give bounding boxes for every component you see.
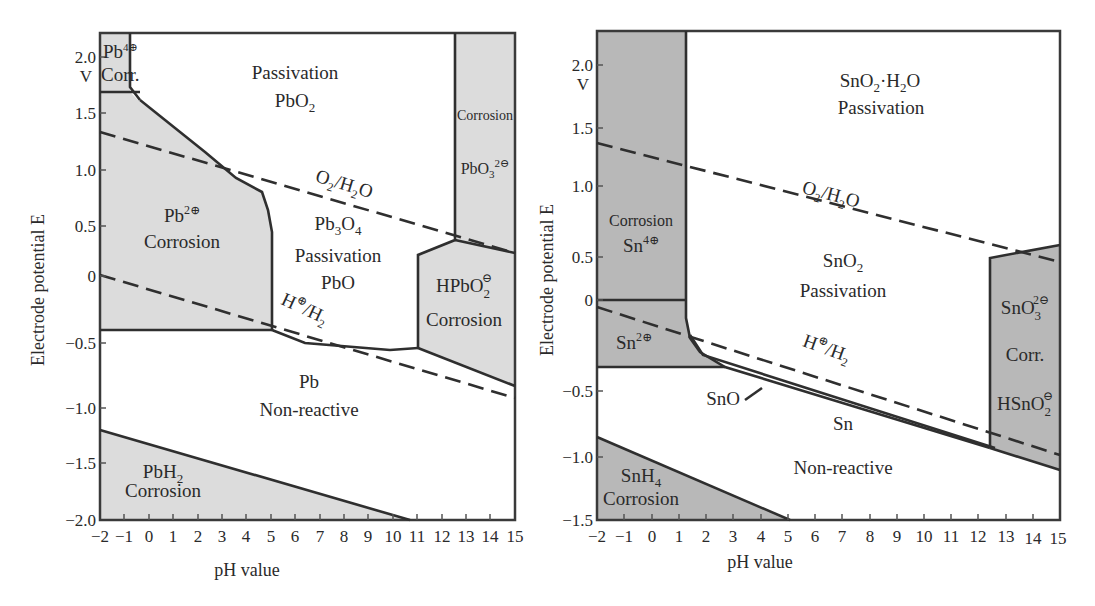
y-tick-labels: 2.0 V 1.5 1.0 0.5 0 −0.5 −1.0 −1.5 bbox=[562, 56, 593, 530]
svg-text:−1.0: −1.0 bbox=[562, 448, 593, 467]
svg-text:1.0: 1.0 bbox=[75, 161, 96, 180]
svg-text:7: 7 bbox=[316, 527, 325, 546]
svg-text:8: 8 bbox=[340, 527, 349, 546]
svg-text:11: 11 bbox=[943, 527, 959, 546]
svg-text:1: 1 bbox=[675, 527, 684, 546]
svg-text:−1.5: −1.5 bbox=[65, 454, 96, 473]
svg-text:14: 14 bbox=[482, 527, 500, 546]
svg-text:12: 12 bbox=[970, 527, 987, 546]
svg-text:0: 0 bbox=[585, 291, 594, 310]
svg-text:4: 4 bbox=[757, 527, 766, 546]
x-axis-label: pH value bbox=[727, 552, 792, 572]
svg-text:1: 1 bbox=[169, 527, 178, 546]
svg-text:Corrosion: Corrosion bbox=[144, 231, 221, 252]
svg-text:8: 8 bbox=[866, 527, 875, 546]
svg-text:2: 2 bbox=[194, 527, 203, 546]
svg-text:2: 2 bbox=[702, 527, 711, 546]
svg-text:6: 6 bbox=[811, 527, 820, 546]
svg-text:3: 3 bbox=[218, 527, 227, 546]
svg-text:Corrosion: Corrosion bbox=[457, 108, 513, 123]
svg-text:2.0: 2.0 bbox=[75, 48, 96, 67]
svg-text:−1: −1 bbox=[615, 527, 633, 546]
svg-text:Corrosion: Corrosion bbox=[609, 212, 673, 229]
svg-text:Corr.: Corr. bbox=[1006, 344, 1045, 365]
svg-text:0.5: 0.5 bbox=[572, 248, 593, 267]
svg-text:−1.0: −1.0 bbox=[65, 399, 96, 418]
svg-text:Non-reactive: Non-reactive bbox=[793, 457, 892, 478]
svg-text:−1: −1 bbox=[115, 527, 133, 546]
sn-diagram: 2.0 V 1.5 1.0 0.5 0 −0.5 −1.0 −1.5 −2 −1… bbox=[537, 31, 1067, 572]
x-tick-labels: −2 −1 0 1 2 3 4 5 6 7 8 9 10 11 12 13 14… bbox=[588, 527, 1067, 548]
svg-text:PbO: PbO bbox=[321, 272, 355, 293]
svg-text:9: 9 bbox=[893, 527, 902, 546]
svg-text:Non-reactive: Non-reactive bbox=[259, 399, 358, 420]
svg-text:1.5: 1.5 bbox=[75, 104, 96, 123]
svg-text:14: 14 bbox=[1025, 529, 1043, 548]
svg-text:0: 0 bbox=[648, 527, 657, 546]
region-pbo3-fill bbox=[455, 33, 515, 253]
svg-text:9: 9 bbox=[364, 527, 373, 546]
svg-text:12: 12 bbox=[434, 527, 451, 546]
svg-text:SnO2: SnO2 bbox=[823, 250, 863, 275]
svg-text:5: 5 bbox=[267, 527, 276, 546]
svg-text:−2: −2 bbox=[91, 527, 109, 546]
region-sn4-fill bbox=[597, 31, 686, 300]
svg-text:Corrosion: Corrosion bbox=[125, 480, 202, 501]
svg-text:0: 0 bbox=[145, 527, 154, 546]
pb-diagram: 2.0 V 1.5 1.0 0.5 0 −0.5 −1.0 −1.5 −2.0 … bbox=[28, 33, 524, 580]
svg-text:Corr.: Corr. bbox=[101, 64, 140, 85]
svg-text:Passivation: Passivation bbox=[252, 62, 339, 83]
svg-text:7: 7 bbox=[838, 527, 847, 546]
svg-text:Passivation: Passivation bbox=[295, 245, 382, 266]
svg-text:15: 15 bbox=[507, 527, 524, 546]
svg-text:Sn: Sn bbox=[833, 413, 854, 434]
svg-text:SnO2·H2O: SnO2·H2O bbox=[840, 70, 921, 95]
svg-text:V: V bbox=[80, 67, 93, 86]
h-h2-label: H⊕/H2 bbox=[799, 328, 854, 370]
svg-text:15: 15 bbox=[1050, 529, 1067, 548]
svg-text:Corrosion: Corrosion bbox=[426, 309, 503, 330]
svg-text:6: 6 bbox=[291, 527, 300, 546]
svg-text:11: 11 bbox=[409, 527, 425, 546]
svg-text:V: V bbox=[577, 75, 590, 94]
svg-text:Pb3O4: Pb3O4 bbox=[315, 213, 362, 238]
svg-text:10: 10 bbox=[916, 527, 933, 546]
svg-text:0.5: 0.5 bbox=[75, 217, 96, 236]
svg-text:−2: −2 bbox=[588, 527, 606, 546]
svg-text:5: 5 bbox=[784, 527, 793, 546]
svg-text:Corrosion: Corrosion bbox=[603, 488, 680, 509]
svg-text:13: 13 bbox=[458, 527, 475, 546]
svg-text:1.5: 1.5 bbox=[572, 119, 593, 138]
svg-text:0: 0 bbox=[88, 267, 97, 286]
svg-text:4: 4 bbox=[242, 527, 251, 546]
svg-text:SnO: SnO bbox=[706, 388, 740, 409]
o2-h2o-label: O2/H2O bbox=[799, 176, 862, 215]
x-tick-labels: −2 −1 0 1 2 3 4 5 6 7 8 9 10 11 12 13 14… bbox=[91, 527, 524, 546]
svg-text:Pb4⊕: Pb4⊕ bbox=[103, 41, 138, 62]
svg-text:−0.5: −0.5 bbox=[562, 382, 593, 401]
svg-text:Pb: Pb bbox=[299, 371, 319, 392]
svg-text:10: 10 bbox=[385, 527, 402, 546]
o2-h2o-label: O2/H2O bbox=[312, 165, 375, 206]
svg-text:Passivation: Passivation bbox=[800, 280, 887, 301]
svg-text:Passivation: Passivation bbox=[838, 97, 925, 118]
y-tick-labels: 2.0 V 1.5 1.0 0.5 0 −0.5 −1.0 −1.5 −2.0 bbox=[65, 48, 96, 530]
svg-text:PbO2: PbO2 bbox=[275, 90, 315, 115]
svg-text:1.0: 1.0 bbox=[572, 177, 593, 196]
svg-text:2.0: 2.0 bbox=[572, 56, 593, 75]
y-axis-label: Electrode potential E bbox=[537, 204, 557, 356]
x-axis-label: pH value bbox=[214, 560, 279, 580]
svg-text:3: 3 bbox=[729, 527, 738, 546]
y-axis-label: Electrode potential E bbox=[28, 214, 48, 366]
h-h2-label: H⊕/H2 bbox=[277, 286, 333, 331]
svg-text:13: 13 bbox=[998, 527, 1015, 546]
pourbaix-figure: 2.0 V 1.5 1.0 0.5 0 −0.5 −1.0 −1.5 −2.0 … bbox=[0, 0, 1095, 606]
svg-text:−0.5: −0.5 bbox=[65, 334, 96, 353]
